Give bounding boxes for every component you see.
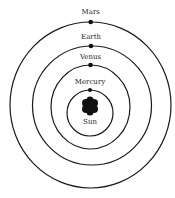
label-venus: Venus bbox=[79, 53, 102, 61]
label-mars: Mars bbox=[82, 8, 101, 16]
planet-mercury-icon bbox=[88, 88, 92, 92]
planet-earth-icon bbox=[89, 44, 94, 49]
solar-system-diagram: Mars Earth Venus Mercury Sun bbox=[0, 0, 175, 198]
sun-icon bbox=[82, 97, 98, 116]
planet-venus-icon bbox=[88, 63, 93, 68]
label-sun: Sun bbox=[83, 118, 97, 126]
label-earth: Earth bbox=[81, 33, 101, 41]
planet-mars-icon bbox=[88, 20, 93, 25]
label-mercury: Mercury bbox=[75, 78, 105, 86]
